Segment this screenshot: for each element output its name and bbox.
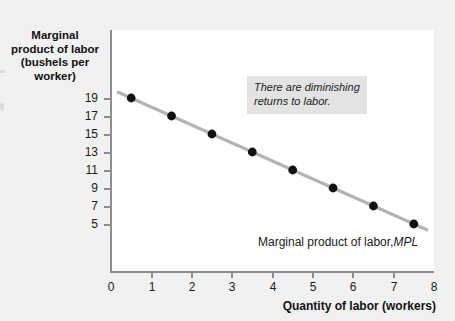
- curve-label-text: Marginal product of labor,: [258, 235, 393, 249]
- page-edge-artifact-bottom: [0, 103, 4, 111]
- x-tick-label-7: 7: [382, 281, 406, 293]
- y-tick-mark-9: [104, 188, 110, 190]
- y-axis-title: Marginal product of labor (bushels per w…: [6, 29, 104, 83]
- y-tick-mark-5: [104, 224, 110, 226]
- x-tick-label-5: 5: [301, 281, 325, 293]
- y-tick-label-7: 7: [58, 200, 98, 212]
- curve-label-symbol: MPL: [393, 235, 418, 249]
- x-tick-mark-4: [272, 272, 274, 278]
- y-tick-label-19: 19: [58, 92, 98, 104]
- figure-container: Marginal product of labor (bushels per w…: [0, 0, 455, 321]
- y-tick-label-17: 17: [58, 110, 98, 122]
- x-tick-label-1: 1: [140, 281, 164, 293]
- y-axis-title-line-1: Marginal: [6, 29, 104, 43]
- y-tick-mark-17: [104, 116, 110, 118]
- page-edge-artifact-top: [0, 70, 5, 73]
- y-tick-label-11: 11: [58, 164, 98, 176]
- y-tick-mark-7: [104, 206, 110, 208]
- x-tick-mark-2: [191, 272, 193, 278]
- y-tick-mark-15: [104, 134, 110, 136]
- y-tick-label-5: 5: [58, 218, 98, 230]
- y-tick-mark-19: [104, 98, 110, 100]
- y-axis-line: [110, 30, 112, 273]
- y-tick-label-9: 9: [58, 182, 98, 194]
- y-tick-label-13: 13: [58, 146, 98, 158]
- y-axis-title-line-2: product of labor: [6, 43, 104, 57]
- x-tick-mark-3: [231, 272, 233, 278]
- annotation-line-1: There are diminishing: [254, 81, 360, 95]
- x-tick-label-0: 0: [99, 281, 123, 293]
- y-axis-title-line-4: worker): [6, 70, 104, 84]
- x-tick-label-3: 3: [220, 281, 244, 293]
- x-tick-label-4: 4: [261, 281, 285, 293]
- x-tick-label-8: 8: [422, 281, 446, 293]
- x-axis-title: Quantity of labor (workers): [214, 299, 436, 313]
- y-axis-title-line-3: (bushels per: [6, 56, 104, 70]
- y-tick-mark-11: [104, 170, 110, 172]
- x-tick-mark-1: [151, 272, 153, 278]
- x-tick-mark-5: [312, 272, 314, 278]
- y-tick-label-15: 15: [58, 128, 98, 140]
- diminishing-returns-annotation: There are diminishing returns to labor.: [247, 76, 367, 114]
- x-tick-label-6: 6: [341, 281, 365, 293]
- y-tick-mark-13: [104, 152, 110, 154]
- curve-label: Marginal product of labor,MPL: [258, 235, 418, 249]
- x-tick-mark-7: [393, 272, 395, 278]
- x-tick-label-2: 2: [180, 281, 204, 293]
- x-tick-mark-6: [352, 272, 354, 278]
- annotation-line-2: returns to labor.: [254, 95, 360, 109]
